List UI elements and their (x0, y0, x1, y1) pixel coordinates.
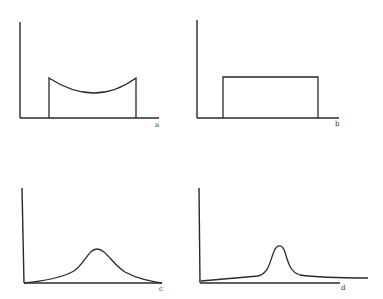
panel-a-curve (49, 78, 136, 118)
panel-a: a (20, 22, 159, 129)
panel-d-label: d (341, 284, 346, 292)
panel-d-curve (201, 246, 368, 281)
panel-b-label: b (335, 120, 340, 128)
panel-c-curve (24, 249, 162, 283)
figure-four-panel-distributions: a b c d (0, 0, 383, 299)
panel-b: b (197, 20, 340, 128)
panel-d: d (199, 188, 368, 292)
panel-d-y-axis (199, 188, 200, 283)
panel-a-label: a (155, 121, 159, 129)
panel-c-y-axis (22, 188, 24, 283)
panel-c-label: c (159, 285, 163, 293)
panel-b-rectangle (223, 77, 318, 118)
panel-c: c (22, 188, 163, 293)
